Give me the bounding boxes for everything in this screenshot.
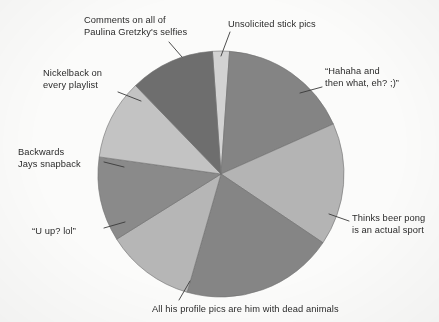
pie-label-u-up-lol: “U up? lol” <box>32 225 76 237</box>
pie-chart-figure: Unsolicited stick pics“Hahaha andthen wh… <box>0 0 439 322</box>
pie-label-line: All his profile pics are him with dead a… <box>152 303 339 315</box>
pie-label-line: then what, eh? ;)” <box>325 77 399 89</box>
pie-label-line: Unsolicited stick pics <box>228 18 316 30</box>
pie-label-dead-animals-profile-pics: All his profile pics are him with dead a… <box>152 303 339 315</box>
pie-label-unsolicited-stick-pics: Unsolicited stick pics <box>228 18 316 30</box>
pie-label-line: Backwards <box>18 146 81 158</box>
leader-line-comments-paulina-gretzky-selfies <box>169 42 182 57</box>
pie-label-line: Nickelback on <box>43 67 102 79</box>
pie-slice-group <box>98 51 344 297</box>
pie-label-line: every playlist <box>43 79 102 91</box>
pie-label-line: Jays snapback <box>18 158 81 170</box>
pie-label-line: is an actual sport <box>352 224 425 236</box>
pie-label-backwards-jays-snapback: BackwardsJays snapback <box>18 146 81 170</box>
pie-label-thinks-beer-pong: Thinks beer pongis an actual sport <box>352 212 425 236</box>
pie-label-nickelback-every-playlist: Nickelback onevery playlist <box>43 67 102 91</box>
pie-label-line: Thinks beer pong <box>352 212 425 224</box>
pie-label-line: “Hahaha and <box>325 65 399 77</box>
pie-label-hahaha-and-then-what: “Hahaha andthen what, eh? ;)” <box>325 65 399 89</box>
pie-label-line: Comments on all of <box>84 14 187 26</box>
pie-label-line: Paulina Gretzky's selfies <box>84 26 187 38</box>
pie-label-line: “U up? lol” <box>32 225 76 237</box>
pie-label-comments-paulina-gretzky-selfies: Comments on all ofPaulina Gretzky's self… <box>84 14 187 38</box>
